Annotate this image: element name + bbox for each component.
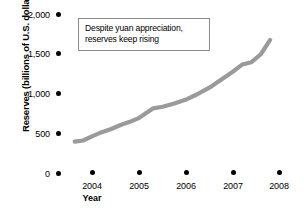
data-series-reserves <box>75 40 270 142</box>
annotation-callout: Despite yuan appreciation, reserves keep… <box>78 18 210 51</box>
annotation-line-1: Despite yuan appreciation, <box>85 23 204 34</box>
chart-container: Reserves (billions of U.S. dollars) 2,00… <box>0 0 304 212</box>
annotation-line-2: reserves keep rising <box>85 34 204 45</box>
